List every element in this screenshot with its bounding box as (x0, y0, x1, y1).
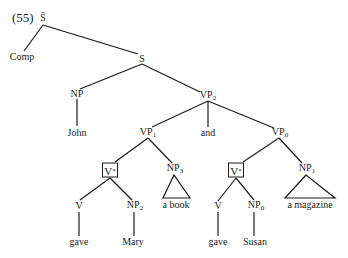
node-vp0: VP0 (272, 126, 288, 141)
node-vp1: VP1 (140, 126, 156, 141)
word-gave-right: gave (209, 236, 228, 248)
word-susan: Susan (243, 236, 267, 248)
word-a-book: a book (163, 199, 190, 211)
word-gave-left: gave (70, 236, 89, 248)
node-np-subject: NP (71, 88, 84, 100)
tree-branches (0, 0, 348, 258)
node-v-left: V (75, 200, 82, 212)
node-np0: NP0 (248, 199, 264, 214)
node-v-star-right: V* (228, 163, 244, 178)
node-np3: NP3 (167, 162, 183, 177)
node-and: and (201, 127, 215, 139)
word-a-magazine: a magazine (287, 199, 332, 211)
node-vp2: VP2 (200, 89, 216, 104)
node-v-star-left: V* (102, 163, 118, 178)
node-np2: NP2 (127, 199, 143, 214)
node-np1: NP1 (299, 162, 315, 177)
word-mary: Mary (122, 236, 144, 248)
word-john: John (68, 127, 87, 139)
node-s: S (139, 53, 145, 65)
node-comp: Comp (10, 51, 34, 63)
node-v-right: V (214, 200, 221, 212)
example-number: (55) (12, 10, 34, 26)
node-s-bar: S̄ (40, 12, 46, 24)
